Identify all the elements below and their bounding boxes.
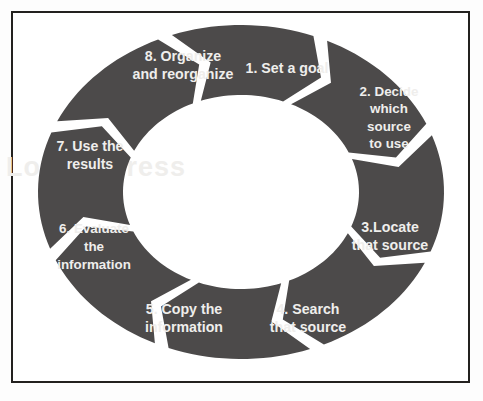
cycle-label-line: results bbox=[67, 156, 114, 172]
cycle-label-line: 6. Evaluate bbox=[59, 221, 129, 236]
cycle-label-line: 3.Locate bbox=[361, 219, 419, 235]
cycle-segments bbox=[38, 25, 444, 359]
cycle-label-line: information bbox=[145, 319, 223, 335]
cycle-label-line: that source bbox=[270, 319, 347, 335]
cycle-label-line: which bbox=[369, 101, 408, 116]
cycle-label-line: that source bbox=[352, 237, 429, 253]
cycle-label-line: and reorganize bbox=[133, 66, 234, 82]
cycle-label-line: information bbox=[57, 257, 131, 272]
cycle-label-line: 2. Decide bbox=[360, 84, 419, 99]
research-cycle-figure: Loyola Press 1. Set a goal2. Decidewhich… bbox=[0, 0, 483, 401]
cycle-label-line: 5. Copy the bbox=[146, 301, 223, 317]
cycle-label-line: source bbox=[367, 119, 411, 134]
cycle-label-line: 1. Set a goal bbox=[246, 60, 329, 76]
cycle-label-line: the bbox=[84, 239, 104, 254]
cycle-diagram: 1. Set a goal2. Decidewhichsourceto use3… bbox=[0, 0, 483, 401]
cycle-label-line: 7. Use the bbox=[56, 138, 123, 154]
cycle-label-line: to use bbox=[369, 136, 408, 151]
cycle-label-line: 8. Organize bbox=[145, 48, 222, 64]
cycle-label-set-a-goal: 1. Set a goal bbox=[246, 60, 329, 76]
cycle-label-line: 4. Search bbox=[276, 301, 339, 317]
